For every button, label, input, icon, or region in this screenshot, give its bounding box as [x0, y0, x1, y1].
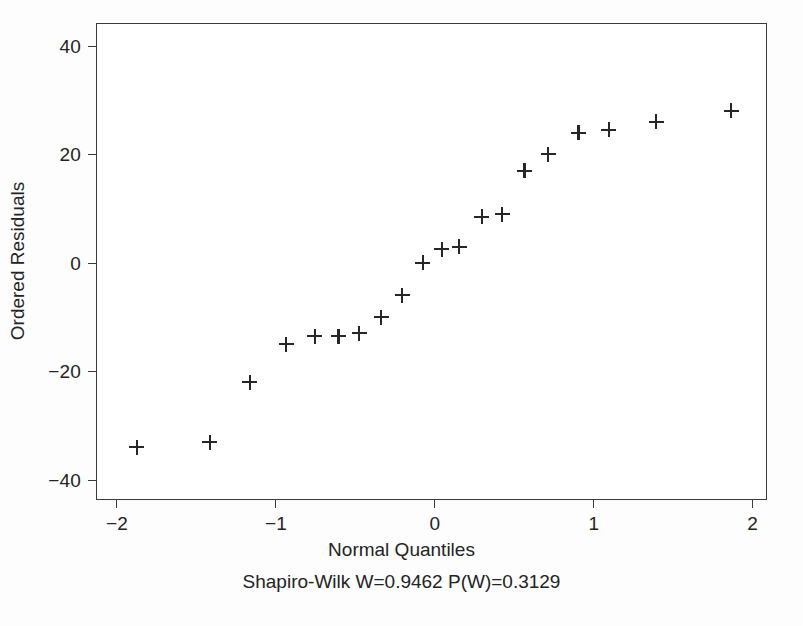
y-axis-tick: −40: [88, 480, 97, 481]
y-axis-tick-label: 40: [59, 36, 81, 58]
data-point: [279, 337, 294, 352]
data-point: [415, 255, 430, 270]
data-point: [452, 239, 467, 254]
data-point: [495, 207, 510, 222]
data-point: [434, 242, 449, 257]
x-axis-tick: 0: [434, 499, 435, 508]
data-point: [129, 440, 144, 455]
data-point: [724, 103, 739, 118]
data-point: [571, 125, 586, 140]
x-axis-tick-label: 1: [588, 513, 599, 535]
data-point: [517, 163, 532, 178]
x-axis-tick: 2: [752, 499, 753, 508]
data-point: [474, 209, 489, 224]
y-axis-tick: 40: [88, 46, 97, 47]
y-axis-tick: −20: [88, 371, 97, 372]
data-point: [307, 329, 322, 344]
x-axis-tick-label: 2: [747, 513, 758, 535]
data-point: [242, 375, 257, 390]
y-axis-tick-label: −40: [48, 470, 81, 492]
y-axis-tick-label: 0: [70, 253, 81, 275]
y-axis-tick: 0: [88, 263, 97, 264]
data-point: [395, 288, 410, 303]
x-axis-tick-label: −1: [265, 513, 287, 535]
x-axis-tick: −1: [275, 499, 276, 508]
x-axis-title: Normal Quantiles: [0, 539, 803, 561]
y-axis-title: Ordered Residuals: [7, 182, 29, 340]
scatter-series: [97, 24, 766, 499]
data-point: [374, 310, 389, 325]
plot-area: 40200−20−40 −2−1012: [96, 23, 767, 500]
x-axis-tick-label: −2: [106, 513, 128, 535]
data-point: [331, 329, 346, 344]
x-axis-tick: 1: [593, 499, 594, 508]
y-axis-tick-label: −20: [48, 361, 81, 383]
data-point: [601, 122, 616, 137]
x-axis-tick-label: 0: [429, 513, 440, 535]
data-point: [202, 435, 217, 450]
x-axis-tick: −2: [116, 499, 117, 508]
y-axis-tick: 20: [88, 154, 97, 155]
qq-plot-figure: 40200−20−40 −2−1012 Ordered Residuals No…: [0, 0, 803, 626]
data-point: [649, 114, 664, 129]
shapiro-wilk-annotation: Shapiro-Wilk W=0.9462 P(W)=0.3129: [0, 571, 803, 593]
data-point: [541, 147, 556, 162]
data-point: [352, 326, 367, 341]
y-axis-tick-label: 20: [59, 144, 81, 166]
